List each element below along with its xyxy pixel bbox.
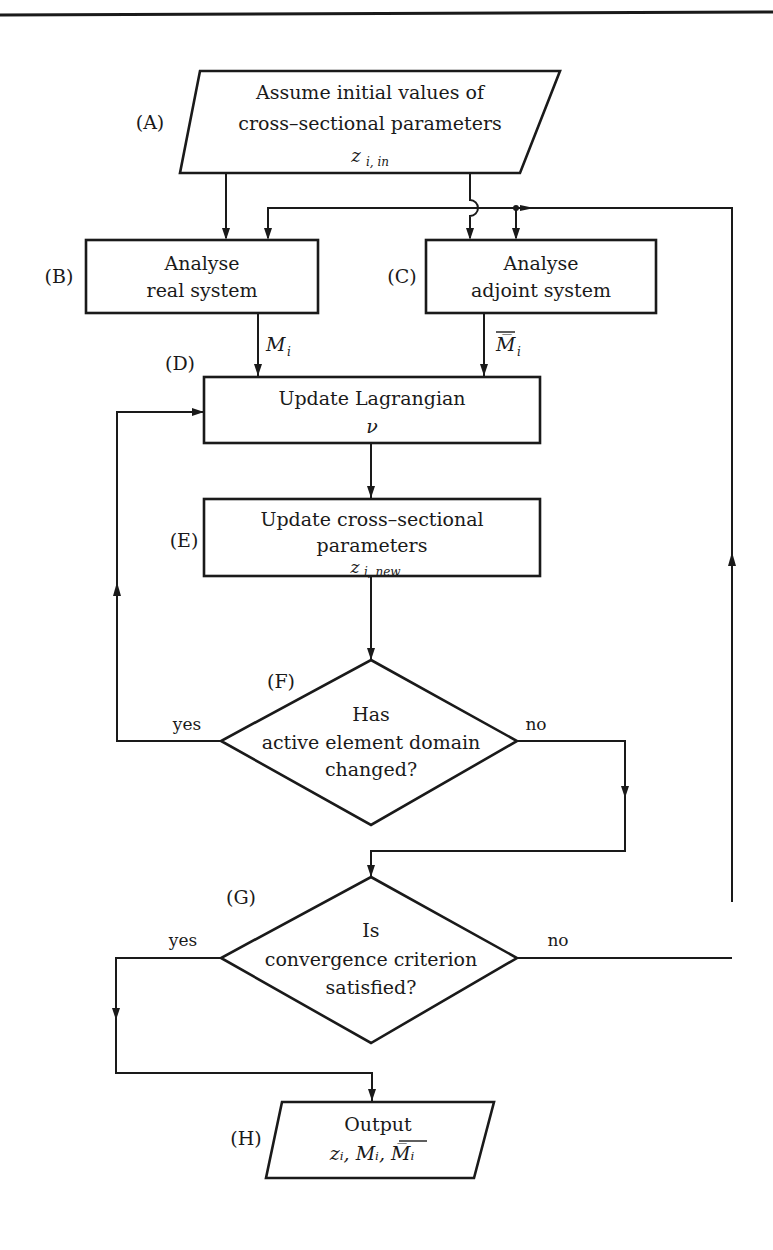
node-b-analyse-real[interactable]: Analyse real system (86, 240, 318, 313)
edge-label-mi-sub: i (287, 345, 291, 359)
node-e-tag: (E) (170, 529, 199, 551)
node-h-tag: (H) (230, 1127, 261, 1149)
node-g-yes-label: yes (168, 930, 197, 950)
node-g-line2: convergence criterion (265, 948, 477, 970)
node-d-tag: (D) (165, 352, 195, 374)
node-c-tag: (C) (387, 265, 416, 287)
node-b-line1: Analyse (163, 252, 239, 274)
node-e-line2: parameters (317, 534, 428, 556)
node-e-line1: Update cross–sectional (260, 508, 483, 530)
node-f-line1: Has (352, 703, 390, 725)
edge-label-mbar-i: M̅ (495, 333, 516, 355)
node-h-line1: Output (344, 1113, 412, 1135)
node-a-tag: (A) (136, 111, 165, 133)
node-c-analyse-adjoint[interactable]: Analyse adjoint system (426, 240, 656, 313)
node-a-var: z (350, 145, 361, 166)
top-rule (0, 12, 773, 15)
node-d-var: ν (366, 415, 378, 437)
node-f-line3: changed? (325, 758, 417, 780)
node-f-yes-label: yes (172, 714, 201, 734)
node-f-tag: (F) (267, 670, 295, 692)
edge-label-mi: M (265, 333, 286, 355)
node-c-line1: Analyse (502, 252, 578, 274)
node-a-line1: Assume initial values of (255, 81, 486, 103)
node-e-var: z (350, 557, 361, 577)
node-f-decision-domain-changed[interactable]: Has active element domain changed? (221, 660, 517, 825)
node-g-no-label: no (547, 930, 568, 950)
node-a-input[interactable]: Assume initial values of cross–sectional… (180, 71, 560, 173)
edge-label-mbar-i-sub: i (517, 345, 521, 359)
node-b-tag: (B) (45, 265, 74, 287)
node-g-line3: satisfied? (326, 976, 417, 998)
node-g-line1: Is (362, 919, 379, 941)
node-g-decision-convergence[interactable]: Is convergence criterion satisfied? (221, 877, 517, 1043)
node-f-line2: active element domain (262, 731, 481, 753)
node-h-vars: zᵢ, Mᵢ, M̅ᵢ (329, 1142, 415, 1164)
node-g-tag: (G) (226, 886, 256, 908)
node-c-line2: adjoint system (471, 279, 611, 301)
node-b-line2: real system (147, 279, 258, 301)
node-d-update-lagrangian[interactable]: Update Lagrangian ν (204, 377, 540, 443)
node-e-update-parameters[interactable]: Update cross–sectional parameters z i, n… (204, 499, 540, 579)
flowchart: Assume initial values of cross–sectional… (0, 0, 773, 1250)
node-d-line1: Update Lagrangian (278, 387, 465, 409)
node-h-output[interactable]: Output zᵢ, Mᵢ, M̅ᵢ (266, 1102, 494, 1178)
node-f-no-label: no (525, 714, 546, 734)
node-a-var-sub: i, in (366, 155, 389, 169)
node-e-var-sub: i, new (364, 565, 401, 579)
node-a-line2: cross–sectional parameters (238, 112, 502, 134)
